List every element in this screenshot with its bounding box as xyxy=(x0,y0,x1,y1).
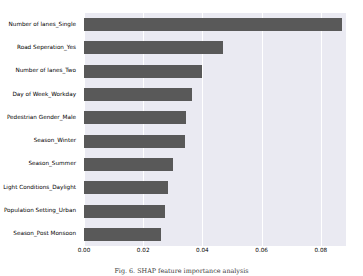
y-tick-label: Number of lanes_Two xyxy=(15,68,76,74)
x-axis-tick-labels: 0.000.020.040.060.08 xyxy=(84,248,346,260)
y-tick-label: Population Setting_Urban xyxy=(4,208,76,214)
bar-row xyxy=(84,36,346,59)
bar-row xyxy=(84,223,346,246)
y-axis-tick-labels: Number of lanes_SingleRoad Seperation_Ye… xyxy=(0,13,80,246)
y-tick-label: Pedestrian Gender_Male xyxy=(7,115,76,121)
y-tick-label: Season_Summer xyxy=(28,162,76,168)
bar xyxy=(84,158,173,171)
bar-row xyxy=(84,176,346,199)
y-tick-label: Season_Post Monsoon xyxy=(13,231,76,237)
bar xyxy=(84,135,185,148)
y-tick-label: Day of Week_Workday xyxy=(12,92,76,98)
bar-row xyxy=(84,106,346,129)
bar xyxy=(84,228,161,241)
y-tick-label: Number of lanes_Single xyxy=(9,22,76,28)
x-tick-label: 0.04 xyxy=(196,248,209,254)
bar xyxy=(84,88,192,101)
x-tick-label: 0.02 xyxy=(137,248,150,254)
bar-row xyxy=(84,13,346,36)
bar xyxy=(84,65,202,78)
x-tick-label: 0.00 xyxy=(78,248,91,254)
bar xyxy=(84,18,342,31)
y-tick-label: Road Seperation_Yes xyxy=(17,45,76,51)
x-tick-label: 0.08 xyxy=(314,248,327,254)
bar-row xyxy=(84,130,346,153)
y-tick-label: Season_Winter xyxy=(34,138,76,144)
bar xyxy=(84,181,168,194)
figure-caption: Fig. 6. SHAP feature importance analysis xyxy=(0,268,363,275)
bar xyxy=(84,41,223,54)
y-tick-label: Light Conditions_Daylight xyxy=(3,185,76,191)
bar xyxy=(84,111,186,124)
bar-row xyxy=(84,60,346,83)
bar xyxy=(84,205,165,218)
x-tick-label: 0.06 xyxy=(255,248,268,254)
bar-row xyxy=(84,199,346,222)
figure: Number of lanes_SingleRoad Seperation_Ye… xyxy=(0,0,363,276)
bar-row xyxy=(84,153,346,176)
bar-row xyxy=(84,83,346,106)
plot-area xyxy=(84,13,346,246)
